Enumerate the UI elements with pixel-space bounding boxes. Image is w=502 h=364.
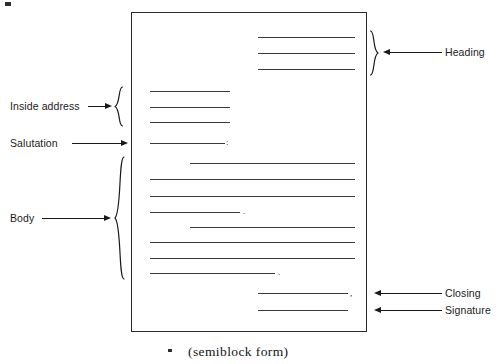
heading-connector (390, 52, 442, 53)
body-period-2: . (278, 268, 280, 277)
inside-address-rule-3 (150, 122, 230, 123)
body-arrowhead (104, 215, 111, 221)
inside-address-rule-2 (150, 107, 230, 108)
body-rule-3 (150, 196, 355, 197)
label-heading: Heading (445, 47, 485, 58)
figure-business-letter-semiblock: : . . , Heading Inside address Salutatio… (0, 0, 502, 364)
letter-page-outline (131, 12, 367, 332)
heading-rule-3 (258, 69, 355, 70)
label-closing: Closing (445, 288, 481, 299)
inside-address-arrowhead (105, 103, 112, 109)
heading-rule-2 (258, 53, 355, 54)
label-inside-address: Inside address (10, 101, 80, 112)
inside-address-brace (113, 86, 124, 127)
inside-address-connector (88, 106, 106, 107)
signature-arrowhead (374, 307, 381, 313)
signature-connector (381, 310, 442, 311)
salutation-connector (72, 143, 122, 144)
body-rule-1 (190, 163, 355, 164)
label-signature: Signature (445, 305, 491, 316)
heading-arrowhead (383, 49, 390, 55)
closing-comma: , (350, 289, 352, 298)
body-connector (42, 218, 105, 219)
heading-rule-1 (258, 37, 355, 38)
body-rule-2 (150, 179, 355, 180)
label-salutation: Salutation (10, 138, 58, 149)
body-rule-8 (150, 273, 275, 274)
scan-speck-caption (168, 349, 172, 352)
body-rule-6 (150, 242, 355, 243)
heading-brace (369, 30, 381, 76)
closing-rule (258, 293, 348, 294)
closing-connector (381, 293, 442, 294)
figure-caption: (semiblock form) (188, 344, 289, 360)
body-brace (113, 156, 126, 280)
closing-arrowhead (374, 290, 381, 296)
salutation-colon: : (226, 138, 229, 147)
body-rule-5 (190, 227, 355, 228)
body-rule-7 (150, 258, 355, 259)
salutation-arrowhead (121, 140, 128, 146)
inside-address-rule-1 (150, 91, 230, 92)
signature-rule (258, 310, 348, 311)
body-rule-4 (150, 212, 240, 213)
salutation-rule (150, 143, 225, 144)
label-body: Body (10, 213, 34, 224)
scan-speck-top-left (5, 2, 11, 6)
body-period-1: . (243, 207, 245, 216)
